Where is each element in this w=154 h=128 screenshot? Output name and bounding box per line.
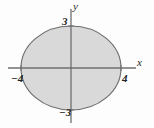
y-tick-label-negative-3: −3 <box>59 107 71 118</box>
x-tick-label-negative-4: −4 <box>11 73 23 84</box>
ellipse-graph-figure: y x 3 −3 4 −4 <box>0 0 154 128</box>
coordinate-plane-svg <box>0 0 154 128</box>
y-axis-label: y <box>73 1 78 12</box>
x-tick-label-positive-4: 4 <box>122 73 128 84</box>
x-axis-label: x <box>137 57 142 68</box>
y-tick-label-positive-3: 3 <box>62 16 68 27</box>
